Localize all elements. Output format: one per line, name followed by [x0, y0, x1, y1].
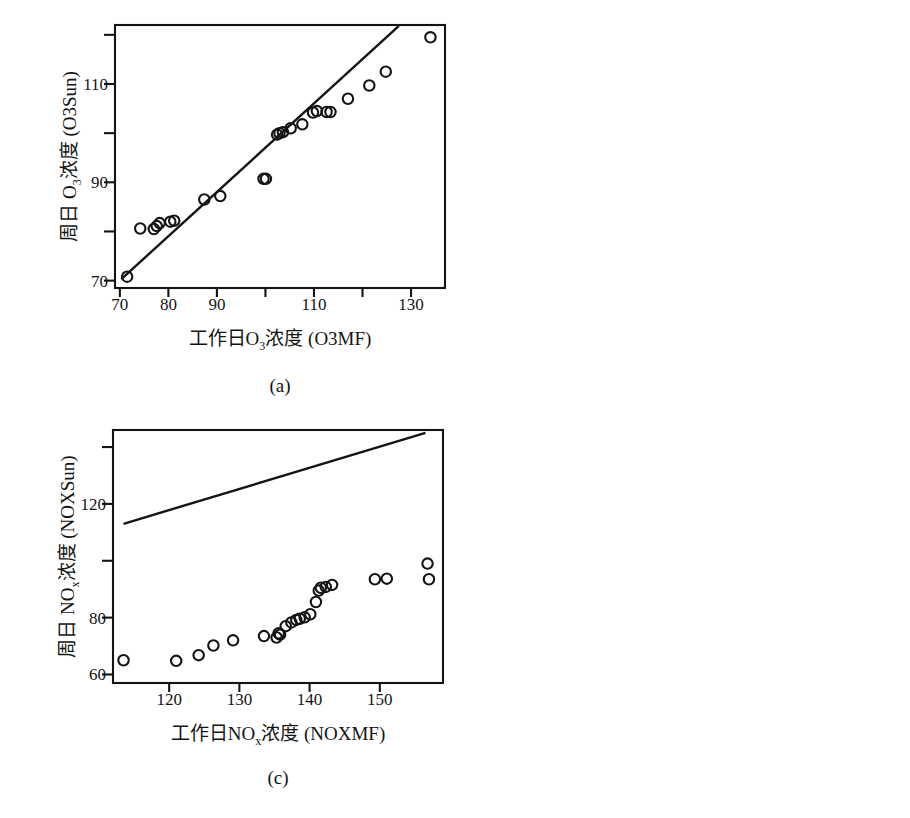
data-point	[311, 597, 321, 607]
data-series	[118, 558, 434, 666]
reference-line-group	[124, 433, 426, 524]
panel-caption: (c)	[267, 767, 288, 789]
plot-frame	[115, 25, 445, 288]
panel-a-plot: 7080901101307090110工作日O3浓度 (O3MF)周日 O3浓度…	[0, 0, 455, 409]
data-point	[425, 32, 435, 42]
reference-line	[121, 26, 399, 279]
x-tick-label: 140	[297, 690, 323, 709]
x-tick-label: 130	[227, 690, 253, 709]
y-axis-title: 周日 O3浓度 (O3Sun)	[59, 71, 84, 242]
data-point	[382, 573, 392, 583]
panel-b-plot: 345678923456工作日CO浓度 (COMF)周日 CO浓度 (COSun…	[455, 0, 910, 409]
reference-line	[124, 433, 426, 524]
x-axis-title: 工作日NOx浓度 (NOXMF)	[171, 723, 385, 748]
y-tick-label: 120	[81, 495, 107, 514]
figure-root: 7080901101307090110工作日O3浓度 (O3MF)周日 O3浓度…	[0, 0, 910, 818]
x-tick-label: 70	[111, 295, 128, 314]
data-point	[152, 221, 162, 231]
reference-line-group	[121, 26, 399, 279]
y-tick-label: 80	[89, 609, 106, 628]
x-tick-label: 120	[156, 690, 182, 709]
x-tick-label: 150	[367, 690, 393, 709]
data-point	[343, 94, 353, 104]
panel-d-plot: 80901101306080100工作日PM10浓度 (PM10MF)周日 PM…	[455, 409, 910, 818]
data-point	[193, 650, 203, 660]
data-point	[228, 635, 238, 645]
y-tick-label: 90	[91, 173, 108, 192]
data-point	[370, 574, 380, 584]
x-tick-label: 80	[160, 295, 177, 314]
y-axis-title: 周日 NOx浓度 (NOXSun)	[57, 455, 82, 657]
data-point	[424, 574, 434, 584]
data-point	[297, 119, 307, 129]
y-tick-label: 70	[91, 272, 108, 291]
data-point	[422, 558, 432, 568]
panel-b: 345678923456工作日CO浓度 (COMF)周日 CO浓度 (COSun…	[455, 0, 910, 409]
panel-c-plot: 1201301401506080120工作日NOx浓度 (NOXMF)周日 NO…	[0, 409, 455, 818]
data-point	[259, 631, 269, 641]
data-point	[215, 191, 225, 201]
data-point	[327, 580, 337, 590]
data-point	[208, 640, 218, 650]
y-tick-label: 110	[83, 75, 108, 94]
panel-c: 1201301401506080120工作日NOx浓度 (NOXMF)周日 NO…	[0, 409, 455, 818]
panel-a: 7080901101307090110工作日O3浓度 (O3MF)周日 O3浓度…	[0, 0, 455, 409]
x-axis-title: 工作日O3浓度 (O3MF)	[189, 328, 372, 353]
x-tick-label: 90	[208, 295, 225, 314]
panel-caption: (a)	[269, 375, 290, 397]
panel-d: 80901101306080100工作日PM10浓度 (PM10MF)周日 PM…	[455, 409, 910, 818]
data-series	[122, 32, 436, 282]
data-point	[118, 655, 128, 665]
plot-frame	[113, 430, 443, 683]
data-point	[135, 223, 145, 233]
x-tick-label: 110	[302, 295, 327, 314]
data-point	[364, 80, 374, 90]
data-point	[171, 656, 181, 666]
data-point	[381, 67, 391, 77]
y-tick-label: 60	[89, 665, 106, 684]
x-tick-label: 130	[398, 295, 424, 314]
